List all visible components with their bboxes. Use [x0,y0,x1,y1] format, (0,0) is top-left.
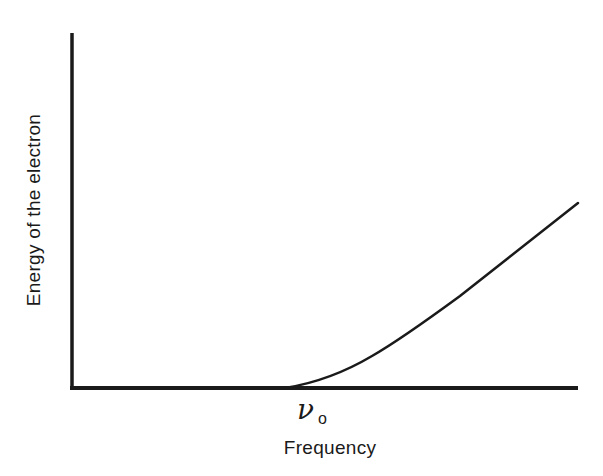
threshold-frequency-symbol: ν [297,393,314,426]
energy-curve [285,203,578,388]
x-axis-label: Frequency [284,437,376,459]
threshold-frequency-subscript: o [318,410,327,428]
y-axis-label: Energy of the electron [23,114,45,307]
